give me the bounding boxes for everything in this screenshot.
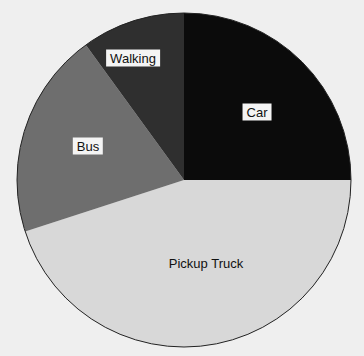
pie-slice-car [184, 13, 351, 180]
label-car: Car [243, 104, 272, 121]
pie-chart [0, 0, 364, 356]
label-bus: Bus [73, 138, 103, 155]
label-walking: Walking [106, 50, 160, 67]
label-pickup-truck: Pickup Truck [165, 255, 247, 272]
